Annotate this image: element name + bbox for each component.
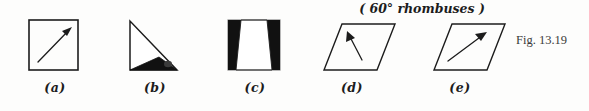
fill-texture-blob bbox=[164, 61, 172, 67]
shape-rhombus-arrow-upleft bbox=[305, 14, 415, 80]
shape-rhombus-arrow-upright bbox=[415, 14, 525, 80]
square-outline bbox=[29, 20, 78, 70]
rhombus-outline bbox=[324, 24, 395, 70]
arrow-shaft bbox=[38, 30, 69, 62]
panel-label-b: (b) bbox=[105, 80, 205, 95]
arrow-head bbox=[346, 31, 355, 42]
figure-13-19: ( 60° rhombuses ) (a) (b) (c) bbox=[0, 0, 589, 111]
shape-right-triangle-filled bbox=[105, 14, 205, 80]
panel-label-c: (c) bbox=[205, 80, 305, 95]
arrow-shaft bbox=[448, 35, 483, 61]
arrow-head bbox=[62, 27, 72, 36]
figure-number-caption: Fig. 13.19 bbox=[516, 33, 567, 48]
shape-square-with-arrow bbox=[5, 14, 105, 80]
shape-square-with-wedges bbox=[205, 14, 305, 80]
panel-label-a: (a) bbox=[5, 80, 105, 95]
panel-b: (b) bbox=[105, 0, 205, 111]
rhombus-outline bbox=[434, 24, 505, 70]
panel-a: (a) bbox=[5, 0, 105, 111]
panel-label-e: (e) bbox=[405, 80, 515, 95]
panel-e: (e) bbox=[415, 0, 525, 111]
panel-d: (d) bbox=[305, 0, 415, 111]
panel-label-d: (d) bbox=[297, 80, 407, 95]
panel-c: (c) bbox=[205, 0, 305, 111]
